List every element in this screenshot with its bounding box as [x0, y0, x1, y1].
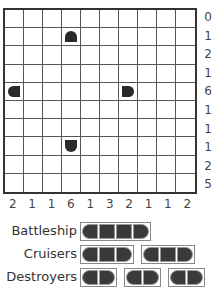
grid-cell-r3-c9[interactable]	[176, 65, 195, 83]
grid-cell-r8-c6[interactable]	[119, 156, 138, 174]
grid-cell-r7-c2[interactable]	[43, 137, 62, 155]
grid-cell-r2-c3[interactable]	[62, 46, 81, 64]
grid-cell-r0-c4[interactable]	[81, 10, 100, 28]
grid-cell-r7-c8[interactable]	[157, 137, 176, 155]
grid-cell-r6-c2[interactable]	[43, 119, 62, 137]
grid-cell-r1-c4[interactable]	[81, 28, 100, 46]
grid-cell-r2-c9[interactable]	[176, 46, 195, 64]
grid-cell-r1-c1[interactable]	[24, 28, 43, 46]
grid-cell-r6-c0[interactable]	[5, 119, 24, 137]
grid-cell-r3-c6[interactable]	[119, 65, 138, 83]
grid-cell-r9-c3[interactable]	[62, 174, 81, 192]
grid-cell-r4-c8[interactable]	[157, 83, 176, 101]
grid-cell-r8-c1[interactable]	[24, 156, 43, 174]
grid-cell-r6-c4[interactable]	[81, 119, 100, 137]
grid-cell-r8-c8[interactable]	[157, 156, 176, 174]
grid-cell-r0-c9[interactable]	[176, 10, 195, 28]
grid-cell-r3-c7[interactable]	[138, 65, 157, 83]
grid-cell-r0-c3[interactable]	[62, 10, 81, 28]
grid-cell-r8-c0[interactable]	[5, 156, 24, 174]
grid-cell-r4-c9[interactable]	[176, 83, 195, 101]
grid-cell-r0-c6[interactable]	[119, 10, 138, 28]
grid-cell-r5-c0[interactable]	[5, 101, 24, 119]
grid-cell-r7-c5[interactable]	[100, 137, 119, 155]
grid-cell-r9-c2[interactable]	[43, 174, 62, 192]
grid-cell-r9-c6[interactable]	[119, 174, 138, 192]
grid-cell-r9-c8[interactable]	[157, 174, 176, 192]
grid-cell-r4-c7[interactable]	[138, 83, 157, 101]
grid-cell-r4-c5[interactable]	[100, 83, 119, 101]
grid-cell-r0-c1[interactable]	[24, 10, 43, 28]
grid-cell-r4-c2[interactable]	[43, 83, 62, 101]
grid-cell-r7-c7[interactable]	[138, 137, 157, 155]
grid-cell-r7-c6[interactable]	[119, 137, 138, 155]
grid-cell-r6-c1[interactable]	[24, 119, 43, 137]
grid-cell-r1-c2[interactable]	[43, 28, 62, 46]
grid-cell-r3-c2[interactable]	[43, 65, 62, 83]
grid-cell-r7-c3[interactable]	[62, 137, 81, 155]
grid-cell-r8-c7[interactable]	[138, 156, 157, 174]
grid-cell-r1-c8[interactable]	[157, 28, 176, 46]
grid-cell-r1-c0[interactable]	[5, 28, 24, 46]
grid-cell-r9-c5[interactable]	[100, 174, 119, 192]
grid-cell-r2-c4[interactable]	[81, 46, 100, 64]
grid-cell-r2-c1[interactable]	[24, 46, 43, 64]
grid-cell-r2-c6[interactable]	[119, 46, 138, 64]
grid-cell-r3-c0[interactable]	[5, 65, 24, 83]
grid-cell-r6-c3[interactable]	[62, 119, 81, 137]
grid-cell-r8-c4[interactable]	[81, 156, 100, 174]
grid-cell-r1-c3[interactable]	[62, 28, 81, 46]
grid-cell-r1-c7[interactable]	[138, 28, 157, 46]
grid-cell-r3-c4[interactable]	[81, 65, 100, 83]
grid-cell-r3-c8[interactable]	[157, 65, 176, 83]
grid-cell-r1-c9[interactable]	[176, 28, 195, 46]
grid-cell-r8-c2[interactable]	[43, 156, 62, 174]
grid-cell-r2-c5[interactable]	[100, 46, 119, 64]
grid-cell-r6-c6[interactable]	[119, 119, 138, 137]
grid-cell-r8-c3[interactable]	[62, 156, 81, 174]
grid-cell-r7-c0[interactable]	[5, 137, 24, 155]
grid-cell-r0-c0[interactable]	[5, 10, 24, 28]
grid-cell-r5-c8[interactable]	[157, 101, 176, 119]
grid-cell-r6-c9[interactable]	[176, 119, 195, 137]
grid-cell-r0-c8[interactable]	[157, 10, 176, 28]
grid-cell-r9-c1[interactable]	[24, 174, 43, 192]
grid-cell-r7-c4[interactable]	[81, 137, 100, 155]
grid-cell-r0-c2[interactable]	[43, 10, 62, 28]
grid-cell-r6-c7[interactable]	[138, 119, 157, 137]
grid-cell-r4-c1[interactable]	[24, 83, 43, 101]
grid-cell-r5-c6[interactable]	[119, 101, 138, 119]
grid-cell-r4-c3[interactable]	[62, 83, 81, 101]
grid-cell-r1-c5[interactable]	[100, 28, 119, 46]
grid-cell-r4-c4[interactable]	[81, 83, 100, 101]
grid-cell-r8-c5[interactable]	[100, 156, 119, 174]
grid-cell-r7-c1[interactable]	[24, 137, 43, 155]
grid-cell-r1-c6[interactable]	[119, 28, 138, 46]
grid-cell-r2-c0[interactable]	[5, 46, 24, 64]
grid-cell-r6-c8[interactable]	[157, 119, 176, 137]
grid-cell-r4-c0[interactable]	[5, 83, 24, 101]
grid-cell-r5-c7[interactable]	[138, 101, 157, 119]
grid-cell-r3-c3[interactable]	[62, 65, 81, 83]
grid-cell-r5-c2[interactable]	[43, 101, 62, 119]
grid-cell-r3-c1[interactable]	[24, 65, 43, 83]
grid-cell-r4-c6[interactable]	[119, 83, 138, 101]
grid-cell-r5-c1[interactable]	[24, 101, 43, 119]
grid-cell-r9-c4[interactable]	[81, 174, 100, 192]
grid-cell-r2-c2[interactable]	[43, 46, 62, 64]
grid-cell-r6-c5[interactable]	[100, 119, 119, 137]
grid-cell-r7-c9[interactable]	[176, 137, 195, 155]
grid-cell-r8-c9[interactable]	[176, 156, 195, 174]
grid-cell-r3-c5[interactable]	[100, 65, 119, 83]
grid-cell-r0-c5[interactable]	[100, 10, 119, 28]
grid-cell-r2-c8[interactable]	[157, 46, 176, 64]
grid-cell-r9-c9[interactable]	[176, 174, 195, 192]
grid-cell-r0-c7[interactable]	[138, 10, 157, 28]
grid-cell-r5-c5[interactable]	[100, 101, 119, 119]
grid-cell-r5-c4[interactable]	[81, 101, 100, 119]
grid-cell-r9-c7[interactable]	[138, 174, 157, 192]
grid-cell-r5-c3[interactable]	[62, 101, 81, 119]
grid-cell-r2-c7[interactable]	[138, 46, 157, 64]
grid-cell-r9-c0[interactable]	[5, 174, 24, 192]
grid-cell-r5-c9[interactable]	[176, 101, 195, 119]
